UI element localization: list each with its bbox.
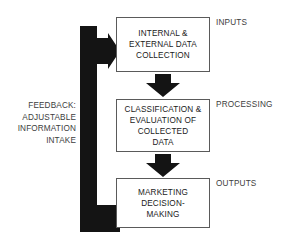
feedback-loop-arrow-icon <box>78 20 120 232</box>
box-processing-label: CLASSIFICATION & EVALUATION OF COLLECTED… <box>125 104 202 148</box>
down-block-arrow-icon <box>146 74 180 97</box>
box-inputs-label: INTERNAL & EXTERNAL DATA COLLECTION <box>129 28 197 61</box>
down-block-arrow-icon <box>146 154 180 177</box>
box-outputs-label: MARKETING DECISION- MAKING <box>138 187 188 220</box>
box-marketing-decision-making: MARKETING DECISION- MAKING <box>116 178 210 228</box>
flowchart-diagram: INTERNAL & EXTERNAL DATA COLLECTION INPU… <box>0 0 283 246</box>
feedback-caption: FEEDBACK: ADJUSTABLE INFORMATION INTAKE <box>0 100 76 146</box>
stage-label-inputs: INPUTS <box>216 18 247 28</box>
box-internal-external-data-collection: INTERNAL & EXTERNAL DATA COLLECTION <box>116 17 210 72</box>
box-classification-evaluation: CLASSIFICATION & EVALUATION OF COLLECTED… <box>116 99 210 152</box>
stage-label-outputs: OUTPUTS <box>216 179 257 189</box>
stage-label-processing: PROCESSING <box>216 100 273 110</box>
